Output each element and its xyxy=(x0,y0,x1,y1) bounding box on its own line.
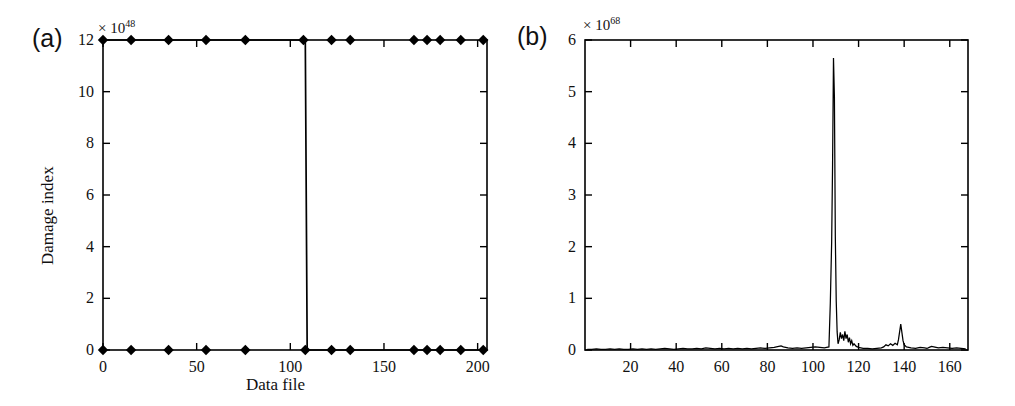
panel-a-plot: 050100150200024681012 xyxy=(0,0,507,406)
panel-a-marker xyxy=(409,345,419,355)
panel-a-y-tick-label: 6 xyxy=(86,186,94,203)
panel-b-x-tick-label: 80 xyxy=(759,358,775,375)
panel-a-x-tick-label: 200 xyxy=(466,358,490,375)
panel-a-marker xyxy=(201,345,211,355)
panel-b: (b) × 1068 204060801001201401600123456 xyxy=(507,0,1015,406)
panel-a-marker xyxy=(345,345,355,355)
panel-a-marker xyxy=(422,35,432,45)
panel-a-marker xyxy=(435,35,445,45)
panel-b-y-tick-label: 3 xyxy=(568,186,576,203)
panel-a-marker xyxy=(98,35,108,45)
panel-a-marker xyxy=(240,35,250,45)
figure-container: (a) × 1048 Damage index Data file 050100… xyxy=(0,0,1015,406)
panel-b-y-tick-label: 5 xyxy=(568,83,576,100)
panel-a-marker xyxy=(298,35,308,45)
panel-a-marker xyxy=(435,345,445,355)
panel-a-marker xyxy=(98,345,108,355)
panel-a-x-tick-label: 150 xyxy=(372,358,396,375)
panel-a-marker xyxy=(326,345,336,355)
panel-a-x-tick-label: 0 xyxy=(99,358,107,375)
panel-a-y-tick-label: 10 xyxy=(78,83,94,100)
panel-a-marker xyxy=(240,345,250,355)
panel-a-y-tick-label: 4 xyxy=(86,238,94,255)
panel-a-marker xyxy=(345,35,355,45)
panel-a-marker xyxy=(422,345,432,355)
panel-a-y-tick-label: 8 xyxy=(86,134,94,151)
panel-a-marker xyxy=(456,345,466,355)
panel-a-y-tick-label: 12 xyxy=(78,31,94,48)
panel-a-x-tick-label: 100 xyxy=(278,358,302,375)
panel-a: (a) × 1048 Damage index Data file 050100… xyxy=(0,0,507,406)
panel-a-marker xyxy=(409,35,419,45)
panel-a-marker xyxy=(126,345,136,355)
panel-a-marker xyxy=(456,35,466,45)
panel-a-marker xyxy=(163,35,173,45)
panel-b-y-tick-label: 1 xyxy=(568,289,576,306)
panel-a-y-tick-label: 0 xyxy=(86,341,94,358)
panel-b-x-tick-label: 20 xyxy=(623,358,639,375)
panel-b-y-tick-label: 2 xyxy=(568,238,576,255)
panel-b-y-tick-label: 4 xyxy=(568,134,576,151)
panel-b-axes-frame xyxy=(585,40,968,350)
panel-a-marker xyxy=(126,35,136,45)
panel-a-x-tick-label: 50 xyxy=(189,358,205,375)
panel-a-marker xyxy=(326,35,336,45)
panel-b-y-tick-label: 6 xyxy=(568,31,576,48)
panel-b-x-tick-label: 120 xyxy=(847,358,871,375)
panel-a-marker xyxy=(163,345,173,355)
panel-b-x-tick-label: 40 xyxy=(668,358,684,375)
panel-b-x-tick-label: 140 xyxy=(892,358,916,375)
panel-b-x-tick-label: 160 xyxy=(938,358,962,375)
panel-a-axes-frame xyxy=(103,40,487,350)
panel-a-marker xyxy=(201,35,211,45)
panel-a-data-line xyxy=(103,40,483,350)
panel-b-y-tick-label: 0 xyxy=(568,341,576,358)
panel-b-x-tick-label: 100 xyxy=(801,358,825,375)
panel-a-marker xyxy=(300,345,310,355)
panel-b-plot: 204060801001201401600123456 xyxy=(507,0,1015,406)
panel-b-x-tick-label: 60 xyxy=(714,358,730,375)
panel-a-y-tick-label: 2 xyxy=(86,289,94,306)
panel-b-data-line xyxy=(587,58,965,349)
